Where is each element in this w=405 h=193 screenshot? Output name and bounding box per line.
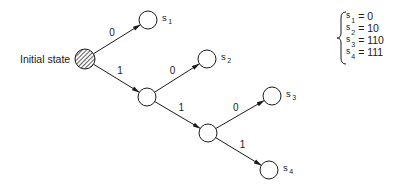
state-label-s2: s2 <box>221 51 231 64</box>
code-assignment-4: s4= 111 <box>346 46 383 60</box>
state-label-s4: s4 <box>283 162 293 175</box>
edge-arrow-n2-s4 <box>216 138 261 165</box>
initial-state-node <box>75 49 95 69</box>
state-node-s4 <box>260 161 278 179</box>
intermediate-node-n1 <box>138 88 156 106</box>
left-brace-icon <box>337 12 346 64</box>
state-label-s3: s3 <box>286 88 296 101</box>
edge-label-n1-s2: 0 <box>170 65 176 76</box>
state-code-tree-diagram: 010101 s1s2s3s4 Initial state s1= 0s2= 1… <box>0 0 405 193</box>
edge-arrow-n2-s3 <box>216 101 264 129</box>
state-label-s1: s1 <box>162 12 172 25</box>
edge-label-init-n1: 1 <box>117 65 123 76</box>
edge-label-n1-n2: 1 <box>179 102 185 113</box>
edge-arrow-n1-n2 <box>155 102 200 129</box>
edges-layer: 010101 <box>94 25 264 165</box>
edge-arrow-init-s1 <box>94 25 140 54</box>
state-node-s2 <box>198 50 216 68</box>
code-assignment-legend: s1= 0s2= 10s3= 110s4= 111 <box>337 10 384 64</box>
edge-label-n2-s4: 1 <box>240 139 246 150</box>
intermediate-node-n2 <box>199 124 217 142</box>
initial-state-label: Initial state <box>20 53 70 65</box>
edge-label-init-s1: 0 <box>109 27 115 38</box>
nodes-layer: s1s2s3s4 <box>75 11 296 179</box>
edge-label-n2-s3: 0 <box>233 102 239 113</box>
state-node-s3 <box>263 87 281 105</box>
state-node-s1 <box>139 11 157 29</box>
edge-arrow-n1-s2 <box>155 64 199 92</box>
